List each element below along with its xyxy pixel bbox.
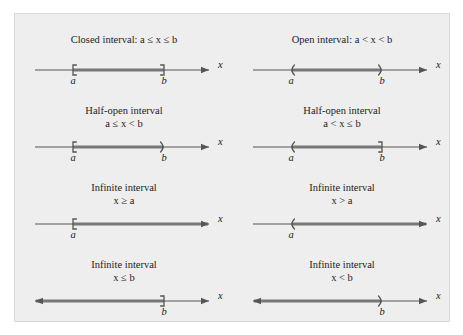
axis-label-x: x [436, 290, 441, 301]
caption-primary: Closed interval: a ≤ x ≤ b [15, 33, 233, 46]
endpoint-label-a: a [284, 152, 298, 163]
caption-primary: Infinite interval [15, 258, 233, 271]
caption-primary: Infinite interval [233, 181, 451, 194]
caption-primary: Infinite interval [233, 258, 451, 271]
caption-secondary: a ≤ x < b [15, 117, 233, 130]
axis-label-x: x [218, 290, 223, 301]
endpoint-label-b: b [157, 152, 171, 163]
endpoint-label-a: a [284, 229, 298, 240]
endpoint-label-b: b [375, 306, 389, 317]
right-arrowhead [201, 221, 209, 227]
caption-primary: Half-open interval [15, 104, 233, 117]
number-line [233, 59, 451, 81]
interval-notation-figure: Closed interval: a ≤ x ≤ babxOpen interv… [14, 13, 450, 322]
number-line [15, 290, 233, 312]
caption-primary: Open interval: a < x < b [233, 33, 451, 46]
caption-secondary: x ≥ a [15, 194, 233, 207]
caption-secondary: x ≤ b [15, 271, 233, 284]
endpoint-label-b: b [375, 152, 389, 163]
number-line-svg [233, 59, 451, 81]
right-arrowhead [419, 298, 427, 304]
axis-label-x: x [436, 136, 441, 147]
axis-label-x: x [218, 136, 223, 147]
interval-diagram-closed-interval: Closed interval: a ≤ x ≤ babx [15, 19, 233, 96]
number-line [233, 290, 451, 312]
number-line [15, 136, 233, 158]
right-arrowhead [201, 67, 209, 73]
axis-label-x: x [436, 213, 441, 224]
endpoint-label-a: a [66, 75, 80, 86]
endpoint-label-a: a [284, 75, 298, 86]
endpoint-label-b: b [157, 75, 171, 86]
endpoint-label-b: b [157, 306, 171, 317]
interval-diagram-infinite-interval-x-gt-a: Infinite intervalx > aax [233, 173, 451, 250]
axis-label-x: x [436, 59, 441, 70]
right-arrowhead [419, 67, 427, 73]
interval-diagram-grid: Closed interval: a ≤ x ≤ babxOpen interv… [15, 14, 449, 321]
right-arrowhead [201, 298, 209, 304]
caption-secondary: a < x ≤ b [233, 117, 451, 130]
interval-diagram-infinite-interval-x-ge-a: Infinite intervalx ≥ aax [15, 173, 233, 250]
number-line-svg [233, 136, 451, 158]
interval-diagram-open-interval: Open interval: a < x < babx [233, 19, 451, 96]
caption-secondary: x < b [233, 271, 451, 284]
number-line-svg [233, 213, 451, 235]
number-line [233, 136, 451, 158]
number-line-svg [233, 290, 451, 312]
right-arrowhead [201, 144, 209, 150]
caption-secondary: x > a [233, 194, 451, 207]
caption-primary: Infinite interval [15, 181, 233, 194]
endpoint-label-a: a [66, 152, 80, 163]
axis-label-x: x [218, 59, 223, 70]
interval-diagram-infinite-interval-x-le-b: Infinite intervalx ≤ bbx [15, 250, 233, 327]
interval-diagram-half-open-interval-left-closed: Half-open intervala ≤ x < babx [15, 96, 233, 173]
number-line-svg [15, 290, 233, 312]
axis-label-x: x [218, 213, 223, 224]
caption-primary: Half-open interval [233, 104, 451, 117]
left-arrowhead [253, 298, 261, 304]
right-arrowhead [419, 144, 427, 150]
left-arrowhead [35, 298, 43, 304]
number-line [233, 213, 451, 235]
endpoint-label-a: a [66, 229, 80, 240]
number-line-svg [15, 136, 233, 158]
interval-diagram-half-open-interval-right-closed: Half-open intervala < x ≤ babx [233, 96, 451, 173]
number-line-svg [15, 59, 233, 81]
interval-diagram-infinite-interval-x-lt-b: Infinite intervalx < bbx [233, 250, 451, 327]
right-arrowhead [419, 221, 427, 227]
number-line [15, 213, 233, 235]
endpoint-label-b: b [375, 75, 389, 86]
number-line [15, 59, 233, 81]
number-line-svg [15, 213, 233, 235]
